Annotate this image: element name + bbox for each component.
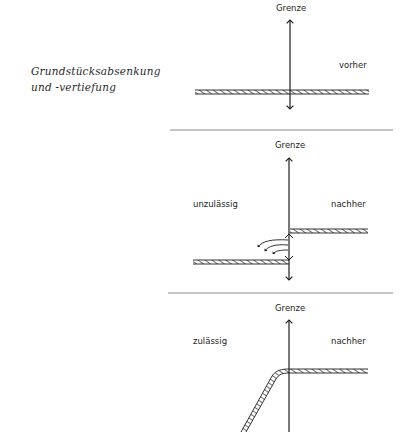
ground-line-upper-not-allowed (290, 229, 368, 233)
panel-not-allowed (193, 158, 368, 280)
panel-before (195, 20, 369, 109)
terrain-diagram (0, 0, 404, 432)
slope-ground-line-allowed (241, 369, 368, 432)
soil-slide-arrows-icon (258, 240, 288, 254)
ground-line-before (195, 90, 369, 94)
ground-line-lower-not-allowed (193, 260, 289, 264)
panel-allowed (241, 320, 368, 432)
